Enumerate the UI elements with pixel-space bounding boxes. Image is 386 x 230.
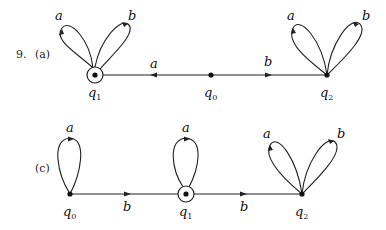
state-q0-label: q0 [63, 204, 76, 221]
loop-q2-a-label: a [263, 126, 271, 141]
diagram-c-tag: (c) [35, 162, 50, 175]
state-q1-label: q1 [179, 204, 192, 221]
state-q2-label: q2 [320, 85, 333, 102]
diagram-a: 9. (a) a b a b q1 q0 a b q2 [16, 8, 370, 102]
loop-q1-b [95, 23, 130, 69]
loop-q0-a-label: a [66, 120, 74, 135]
automata-figure: 9. (a) a b a b q1 q0 a b q2 ( [0, 0, 386, 230]
problem-number: 9. [16, 48, 27, 61]
loop-q2-a [269, 142, 302, 194]
edge-q0-q2-label: b [264, 54, 272, 69]
loop-q0-a [58, 138, 81, 194]
state-q2 [324, 72, 329, 77]
loop-q2-a [292, 25, 327, 75]
arrowhead-icon [184, 137, 190, 142]
loop-q2-b-label: b [337, 126, 345, 141]
loop-q1-a [60, 26, 93, 68]
arrowhead-left-icon [150, 73, 157, 78]
arrowhead-right-icon [124, 192, 131, 197]
state-q1-dot [183, 191, 188, 196]
loop-q1-a [173, 138, 198, 187]
loop-q2-b [327, 22, 362, 75]
diagram-c: (c) a b a b q1 q0 a b q2 [35, 120, 345, 221]
state-q1-dot [92, 72, 97, 77]
loop-q2-b-label: b [362, 8, 370, 23]
state-q0 [208, 72, 213, 77]
edge-q0-q1-label: a [150, 56, 158, 71]
loop-q2-b [302, 141, 337, 194]
loop-q1-a-label: a [55, 8, 63, 23]
state-q2-label: q2 [295, 204, 308, 221]
state-q0 [67, 191, 72, 196]
state-q1-label: q1 [88, 85, 101, 102]
state-q2 [299, 191, 304, 196]
arrowhead-icon [68, 137, 74, 142]
loop-q1-a-label: a [182, 120, 190, 135]
edge-q1-q2-label: b [240, 199, 248, 214]
loop-q1-b-label: b [128, 8, 136, 23]
edge-q0-q1-label: b [123, 199, 131, 214]
diagram-a-tag: (a) [35, 48, 50, 61]
arrowhead-right-icon [240, 192, 247, 197]
loop-q2-a-label: a [287, 8, 295, 23]
state-q0-label: q0 [204, 85, 217, 102]
arrowhead-right-icon [265, 73, 272, 78]
